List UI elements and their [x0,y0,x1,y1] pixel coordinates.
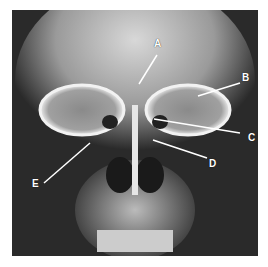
label-e: E [32,178,39,189]
label-c: C [248,132,255,143]
label-a: A [154,38,161,49]
label-d: D [209,158,216,169]
skull-radiograph [12,10,258,256]
label-b: B [242,72,249,83]
xray-image: A B C D E [12,10,258,256]
